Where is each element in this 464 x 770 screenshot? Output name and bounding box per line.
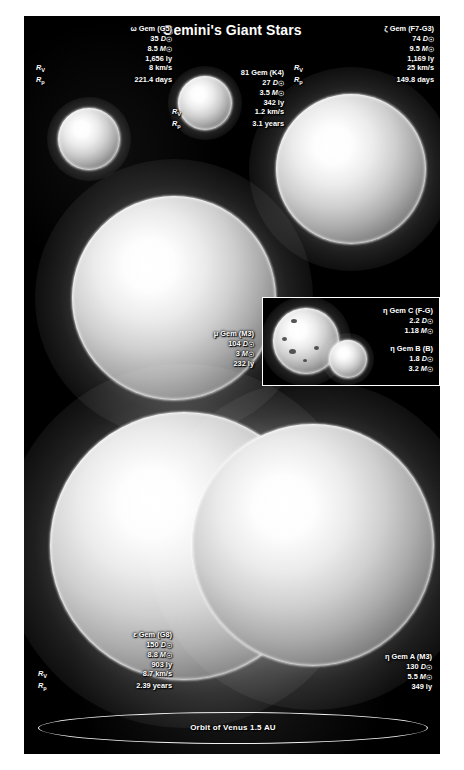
star-diameter: 104 D☉ (154, 339, 254, 349)
star-distance: 349 ly (312, 682, 432, 692)
star-label-eta-gem-b: η Gem B (B) 1.8 D☉ 3.2 M☉ (390, 344, 433, 374)
star-diameter: 74 D☉ (294, 34, 434, 44)
star-mass: 8.8 M☉ (38, 650, 172, 660)
starspot (291, 319, 297, 323)
star-mass: 3.2 M☉ (390, 364, 433, 374)
star-diameter: 27 D☉ (172, 78, 284, 88)
star-body (273, 308, 339, 374)
star-mass: 1.18 M☉ (383, 326, 433, 336)
star-distance: 1,169 ly (294, 54, 434, 64)
star-rotation-period: Rp221.4 days (36, 75, 172, 87)
star-sphere-eta-gem-b (329, 340, 367, 378)
star-diameter: 130 D☉ (312, 662, 432, 672)
starspot (303, 359, 307, 362)
star-distance: 342 ly (172, 98, 284, 108)
star-name: 81 Gem (K4) (172, 68, 284, 78)
star-radial-velocity: RV1.2 km/s (172, 107, 284, 119)
venus-orbit-label: Orbit of Venus 1.5 AU (39, 723, 427, 732)
star-halo (262, 297, 351, 386)
star-diameter: 2.2 D☉ (383, 316, 433, 326)
star-name: η Gem B (B) (390, 344, 433, 354)
star-label-81-gem: 81 Gem (K4) 27 D☉ 3.5 M☉ 342 ly RV1.2 km… (172, 68, 284, 132)
star-distance: 903 ly (38, 660, 172, 670)
star-body (329, 340, 367, 378)
star-name: ε Gem (G8) (38, 630, 172, 640)
star-radial-velocity: RV8.7 km/s (38, 669, 172, 681)
star-diameter: 1.8 D☉ (390, 354, 433, 364)
star-name: η Gem C (F-G) (383, 306, 433, 316)
star-label-eta-gem-c: η Gem C (F-G) 2.2 D☉ 1.18 M☉ (383, 306, 433, 336)
star-label-mu-gem: μ Gem (M3) 104 D☉ 3 M☉ 232 ly (154, 329, 254, 368)
star-distance: 1,656 ly (36, 54, 172, 64)
star-label-epsilon-gem: ε Gem (G8) 150 D☉ 8.8 M☉ 903 ly RV8.7 km… (38, 630, 172, 694)
star-name: μ Gem (M3) (154, 329, 254, 339)
star-mass: 3 M☉ (154, 349, 254, 359)
star-radial-velocity: RV25 km/s (294, 63, 434, 75)
star-rotation-period: Rp149.8 days (294, 75, 434, 87)
star-mass: 5.5 M☉ (312, 672, 432, 682)
star-radial-velocity: RV8 km/s (36, 63, 172, 75)
star-label-omega-gem: ω Gem (G5) 35 D☉ 8.5 M☉ 1,656 ly RV8 km/… (36, 24, 172, 88)
star-name: η Gem A (M3) (312, 652, 432, 662)
diagram-canvas: Gemini's Giant Stars (24, 16, 440, 754)
star-rotation-period: Rp3.1 years (172, 119, 284, 131)
star-sphere-eta-gem-c (273, 308, 339, 374)
star-mass: 8.5 M☉ (36, 44, 172, 54)
star-rotation-period: Rp2.39 years (38, 681, 172, 693)
starspot (289, 349, 296, 354)
star-mass: 3.5 M☉ (172, 88, 284, 98)
star-name: ζ Gem (F7-G3) (294, 24, 434, 34)
star-distance: 232 ly (154, 359, 254, 369)
star-rim (329, 340, 367, 378)
star-label-zeta-gem: ζ Gem (F7-G3) 74 D☉ 9.5 M☉ 1,169 ly RV25… (294, 24, 434, 88)
star-diameter: 35 D☉ (36, 34, 172, 44)
starspot (282, 337, 287, 341)
starspot (314, 346, 319, 350)
star-name: ω Gem (G5) (36, 24, 172, 34)
inset-panel-eta-gem-components: η Gem C (F-G) 2.2 D☉ 1.18 M☉ η Gem B (B)… (262, 297, 440, 386)
venus-orbit-ellipse: Orbit of Venus 1.5 AU (38, 712, 428, 744)
star-diameter: 150 D☉ (38, 640, 172, 650)
star-label-eta-gem-a: η Gem A (M3) 130 D☉ 5.5 M☉ 349 ly (312, 652, 432, 691)
star-mass: 9.5 M☉ (294, 44, 434, 54)
star-halo (322, 333, 374, 385)
star-rim (273, 308, 339, 374)
